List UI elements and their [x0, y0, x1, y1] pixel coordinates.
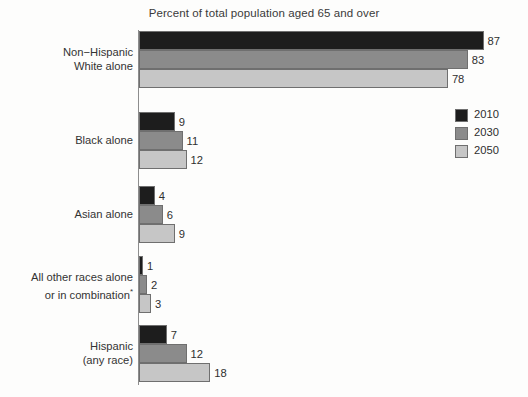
legend-swatch-icon: [455, 109, 468, 122]
bar-row: 9: [139, 224, 528, 243]
legend-swatch-icon: [455, 127, 468, 140]
category-label-line: Non−Hispanic: [0, 46, 133, 59]
bar-2050[interactable]: [139, 363, 210, 382]
bar-2030[interactable]: [139, 131, 183, 150]
legend-label: 2010: [474, 108, 499, 120]
category-label: Asian alone: [0, 208, 133, 221]
bar-value-label: 83: [472, 54, 484, 66]
bar-2030[interactable]: [139, 205, 163, 224]
bar-value-label: 4: [159, 190, 165, 202]
legend-swatch-icon: [455, 145, 468, 158]
footnote-marker: *: [130, 287, 133, 296]
bar-2050[interactable]: [139, 294, 151, 313]
bar-2010[interactable]: [139, 112, 175, 131]
bar-2010[interactable]: [139, 31, 484, 50]
category-label-line: Hispanic: [0, 340, 133, 353]
bar-2030[interactable]: [139, 344, 187, 363]
bar-2010[interactable]: [139, 256, 143, 275]
bar-group: All other races aloneor in combination*1…: [0, 256, 528, 313]
category-label-line: Black alone: [0, 134, 133, 147]
legend-label: 2030: [474, 126, 499, 138]
bar-row: 7: [139, 325, 528, 344]
category-label-line: All other races alone: [0, 271, 133, 284]
bar-chart-figure: Percent of total population aged 65 and …: [0, 0, 528, 397]
bar-value-label: 11: [187, 135, 199, 147]
bar-2050[interactable]: [139, 150, 187, 169]
bar-value-label: 9: [179, 228, 185, 240]
bar-value-label: 3: [155, 298, 161, 310]
bar-value-label: 6: [167, 209, 173, 221]
bar-row: 9: [139, 112, 528, 131]
plot-area: Non−HispanicWhite alone878378Black alone…: [0, 0, 528, 397]
bar-row: 11: [139, 131, 528, 150]
category-label: All other races aloneor in combination*: [0, 271, 133, 301]
bar-2030[interactable]: [139, 275, 147, 294]
bar-2050[interactable]: [139, 69, 448, 88]
category-label: Non−HispanicWhite alone: [0, 46, 133, 72]
bar-value-label: 9: [179, 116, 185, 128]
bar-row: 78: [139, 69, 528, 88]
bar-value-label: 7: [171, 329, 177, 341]
category-label: Black alone: [0, 134, 133, 147]
bar-row: 4: [139, 186, 528, 205]
category-label-line: or in combination*: [0, 285, 133, 302]
bar-row: 83: [139, 50, 528, 69]
bar-row: 6: [139, 205, 528, 224]
bar-value-label: 18: [214, 367, 226, 379]
bar-value-label: 2: [151, 279, 157, 291]
bar-row: 2: [139, 275, 528, 294]
bar-value-label: 12: [191, 154, 203, 166]
category-label: Hispanic(any race): [0, 340, 133, 366]
bar-2050[interactable]: [139, 224, 175, 243]
bar-2030[interactable]: [139, 50, 468, 69]
bar-row: 12: [139, 150, 528, 169]
bar-row: 1: [139, 256, 528, 275]
bar-group: Non−HispanicWhite alone878378: [0, 31, 528, 88]
bar-row: 3: [139, 294, 528, 313]
category-label-line: White alone: [0, 60, 133, 73]
bar-2010[interactable]: [139, 325, 167, 344]
category-label-line: Asian alone: [0, 208, 133, 221]
bar-value-label: 87: [488, 35, 500, 47]
bar-2010[interactable]: [139, 186, 155, 205]
bar-value-label: 1: [147, 260, 153, 272]
bar-value-label: 12: [191, 348, 203, 360]
bar-group: Asian alone469: [0, 186, 528, 243]
bar-group: Black alone91112: [0, 112, 528, 169]
bar-value-label: 78: [452, 73, 464, 85]
category-label-line: (any race): [0, 354, 133, 367]
bar-group: Hispanic(any race)71218: [0, 325, 528, 382]
legend-label: 2050: [474, 144, 499, 156]
bar-row: 12: [139, 344, 528, 363]
bar-row: 87: [139, 31, 528, 50]
bar-row: 18: [139, 363, 528, 382]
